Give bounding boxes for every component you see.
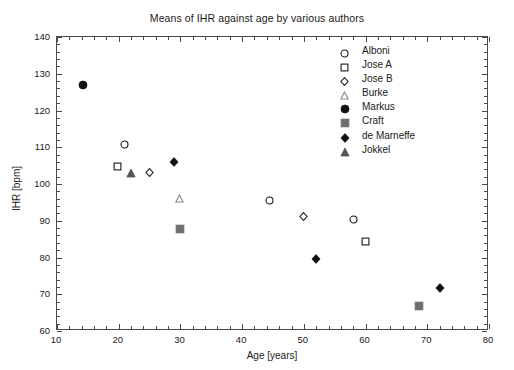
y-tick-major xyxy=(482,331,487,332)
y-tick-label: 140 xyxy=(10,31,50,42)
legend-label: Craft xyxy=(362,114,384,128)
data-point-craft xyxy=(414,297,424,315)
data-point-de-marneffe xyxy=(311,250,321,268)
legend-label: Burke xyxy=(362,86,388,100)
data-point-jose-a xyxy=(361,232,370,250)
legend-item-de-marneffe[interactable]: de Marneffe xyxy=(340,129,460,143)
x-tick-major xyxy=(489,37,490,42)
legend-item-jose-a[interactable]: Jose A xyxy=(340,58,460,72)
x-tick-label: 50 xyxy=(283,334,323,345)
y-tick-label: 110 xyxy=(10,141,50,152)
legend-label: Jose B xyxy=(362,72,393,86)
y-tick-label: 100 xyxy=(10,178,50,189)
x-tick-major xyxy=(489,324,490,329)
legend-item-alboni[interactable]: Alboni xyxy=(340,44,460,58)
data-point-alboni xyxy=(120,135,129,153)
y-tick-label: 120 xyxy=(10,104,50,115)
filled-diamond-icon xyxy=(340,129,356,143)
data-point-alboni xyxy=(265,191,274,209)
legend-item-jose-b[interactable]: Jose B xyxy=(340,72,460,86)
x-tick-label: 70 xyxy=(406,334,446,345)
data-point-de-marneffe xyxy=(169,153,179,171)
y-tick-label: 80 xyxy=(10,251,50,262)
open-circle-icon xyxy=(340,44,356,58)
data-point-markus xyxy=(78,76,88,94)
legend-label: Jose A xyxy=(362,58,392,72)
open-diamond-icon xyxy=(340,72,356,86)
data-point-jose-b xyxy=(145,163,154,181)
open-square-icon xyxy=(340,58,356,72)
legend-item-jokkel[interactable]: Jokkel xyxy=(340,143,460,157)
filled-triangle-icon xyxy=(340,143,356,157)
chart-figure: Means of IHR against age by various auth… xyxy=(0,0,514,370)
legend: AlboniJose AJose BBurkeMarkusCraftde Mar… xyxy=(340,44,460,157)
x-axis-title: Age [years] xyxy=(56,350,488,361)
filled-square-icon xyxy=(340,114,356,128)
x-tick-label: 60 xyxy=(345,334,385,345)
data-point-de-marneffe xyxy=(435,279,445,297)
data-point-jose-b xyxy=(299,207,308,225)
legend-item-craft[interactable]: Craft xyxy=(340,114,460,128)
data-point-burke xyxy=(175,189,184,207)
y-tick-label: 130 xyxy=(10,67,50,78)
legend-label: Jokkel xyxy=(362,143,390,157)
data-point-alboni xyxy=(349,210,358,228)
x-tick-label: 20 xyxy=(98,334,138,345)
filled-circle-icon xyxy=(340,100,356,114)
x-tick-label: 10 xyxy=(36,334,76,345)
y-tick-label: 70 xyxy=(10,288,50,299)
x-tick-label: 40 xyxy=(221,334,261,345)
legend-label: de Marneffe xyxy=(362,129,415,143)
open-triangle-icon xyxy=(340,86,356,100)
x-tick-label: 80 xyxy=(468,334,508,345)
chart-title: Means of IHR against age by various auth… xyxy=(0,12,514,24)
legend-label: Alboni xyxy=(362,44,390,58)
x-tick-label: 30 xyxy=(159,334,199,345)
data-point-jose-a xyxy=(113,157,122,175)
y-tick-label: 90 xyxy=(10,214,50,225)
legend-item-burke[interactable]: Burke xyxy=(340,86,460,100)
data-point-craft xyxy=(175,220,185,238)
data-point-jokkel xyxy=(126,164,136,182)
legend-item-markus[interactable]: Markus xyxy=(340,100,460,114)
legend-label: Markus xyxy=(362,100,395,114)
y-tick-major xyxy=(57,331,62,332)
